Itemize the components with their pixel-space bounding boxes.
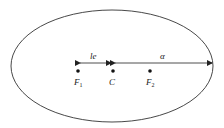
center-c-label: C — [109, 77, 116, 87]
focus-f2-dot — [148, 69, 152, 73]
ellipse-outline — [11, 10, 213, 122]
center-c-dot — [111, 69, 115, 73]
ellipse-diagram: le α F1 C F2 — [0, 0, 224, 128]
focus-f2-label: F2 — [145, 77, 155, 88]
focus-f1-label: F1 — [73, 77, 83, 88]
focal-distance-label: le — [90, 51, 97, 61]
semi-major-axis-label: α — [160, 51, 165, 61]
focus-f1-dot — [76, 69, 80, 73]
